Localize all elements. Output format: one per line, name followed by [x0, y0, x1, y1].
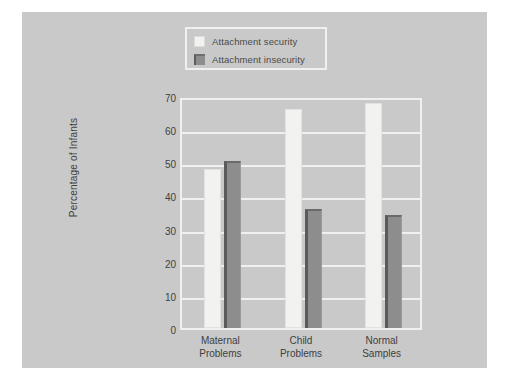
figure-panel: Attachment security Attachment insecurit…	[22, 12, 487, 368]
bar-security-0	[204, 169, 221, 328]
bar-security-1	[285, 109, 302, 328]
chart-legend: Attachment security Attachment insecurit…	[185, 27, 327, 70]
bar-insecurity-0	[224, 161, 241, 328]
x-tick-label-line: Samples	[337, 347, 427, 360]
x-tick-label-line: Maternal	[175, 334, 265, 347]
x-axis-labels: MaternalProblemsChildProblemsNormalSampl…	[180, 334, 422, 374]
legend-label-security: Attachment security	[212, 36, 297, 47]
x-tick-label: ChildProblems	[256, 334, 346, 360]
y-tick-label: 70	[142, 93, 176, 104]
legend-item-attachment-insecurity: Attachment insecurity	[194, 51, 319, 68]
light-swatch-icon	[194, 36, 205, 47]
x-tick-label-line: Child	[256, 334, 346, 347]
y-tick-label: 50	[142, 159, 176, 170]
y-axis-title: Percentage of Infants	[68, 98, 79, 238]
dark-swatch-icon	[194, 54, 205, 65]
y-tick-label: 60	[142, 126, 176, 137]
legend-label-insecurity: Attachment insecurity	[212, 54, 305, 65]
x-tick-label-line: Normal	[337, 334, 427, 347]
y-tick-label: 40	[142, 192, 176, 203]
bar-insecurity-2	[385, 215, 402, 328]
y-tick-label: 0	[142, 325, 176, 336]
plot-area	[180, 98, 422, 330]
x-tick-label-line: Problems	[256, 347, 346, 360]
y-tick-label: 30	[142, 225, 176, 236]
y-axis-ticks: 010203040506070	[134, 98, 176, 330]
bar-security-2	[365, 103, 382, 328]
x-tick-label: MaternalProblems	[175, 334, 265, 360]
bar-insecurity-1	[305, 209, 322, 328]
figure-root: Attachment security Attachment insecurit…	[0, 0, 509, 384]
legend-item-attachment-security: Attachment security	[194, 33, 319, 50]
y-tick-label: 10	[142, 291, 176, 302]
x-tick-label-line: Problems	[175, 347, 265, 360]
x-tick-label: NormalSamples	[337, 334, 427, 360]
y-tick-label: 20	[142, 258, 176, 269]
